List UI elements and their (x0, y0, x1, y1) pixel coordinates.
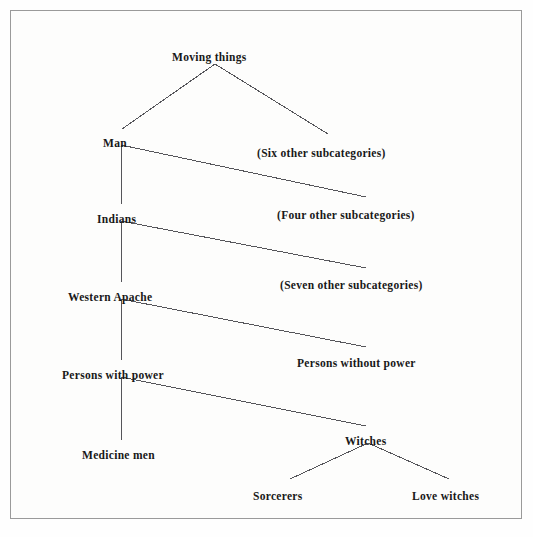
tree-node-persons-without-power: Persons without power (297, 358, 416, 370)
tree-edge-persons-with-power-to-witches (121, 377, 366, 426)
tree-node-seven-other: (Seven other subcategories) (280, 280, 423, 292)
tree-node-medicine-men: Medicine men (82, 450, 155, 462)
tree-node-indians: Indians (97, 214, 136, 226)
tree-node-love-witches: Love witches (412, 491, 479, 503)
tree-node-moving-things: Moving things (172, 52, 247, 64)
taxonomy-diagram: Moving thingsMan(Six other subcategories… (0, 0, 533, 537)
tree-node-four-other: (Four other subcategories) (277, 210, 415, 222)
tree-edge-witches-to-sorcerers (290, 443, 368, 479)
tree-node-sorcerers: Sorcerers (253, 491, 303, 503)
tree-edge-moving-things-to-man (122, 64, 215, 129)
tree-edge-moving-things-to-six-other (215, 64, 328, 134)
tree-node-western-apache: Western Apache (68, 292, 152, 304)
tree-edges (0, 0, 533, 537)
tree-node-persons-with-power: Persons with power (62, 370, 164, 382)
tree-edge-witches-to-love-witches (368, 443, 449, 479)
tree-edge-western-apache-to-persons-without-power (121, 299, 366, 347)
tree-node-witches: Witches (345, 436, 387, 448)
tree-edge-indians-to-seven-other (121, 221, 366, 268)
tree-node-man: Man (103, 138, 127, 150)
tree-node-six-other: (Six other subcategories) (257, 148, 386, 160)
